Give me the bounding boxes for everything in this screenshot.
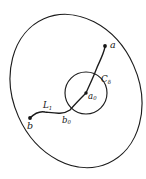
label-path-l1: L1: [43, 101, 52, 111]
label-a0-subscript: 0: [93, 95, 96, 101]
label-circle-c-delta: Cδ: [101, 75, 111, 85]
label-point-b: b: [27, 121, 33, 131]
label-c-subscript: δ: [108, 79, 111, 85]
math-figure: a b a0 b0 Cδ L1: [0, 0, 146, 179]
label-point-a0: a0: [88, 92, 97, 102]
outer-ellipse-boundary: [0, 0, 146, 179]
label-l-subscript: 1: [49, 105, 52, 111]
curve-a0-to-b: [30, 93, 86, 118]
figure-canvas: [0, 0, 146, 179]
label-c-base: C: [101, 74, 108, 84]
label-b0-subscript: 0: [68, 119, 71, 125]
label-point-a: a: [110, 40, 116, 50]
curve-a0-to-a: [86, 47, 105, 93]
label-point-b0: b0: [62, 116, 71, 126]
point-a-dot: [103, 44, 107, 48]
